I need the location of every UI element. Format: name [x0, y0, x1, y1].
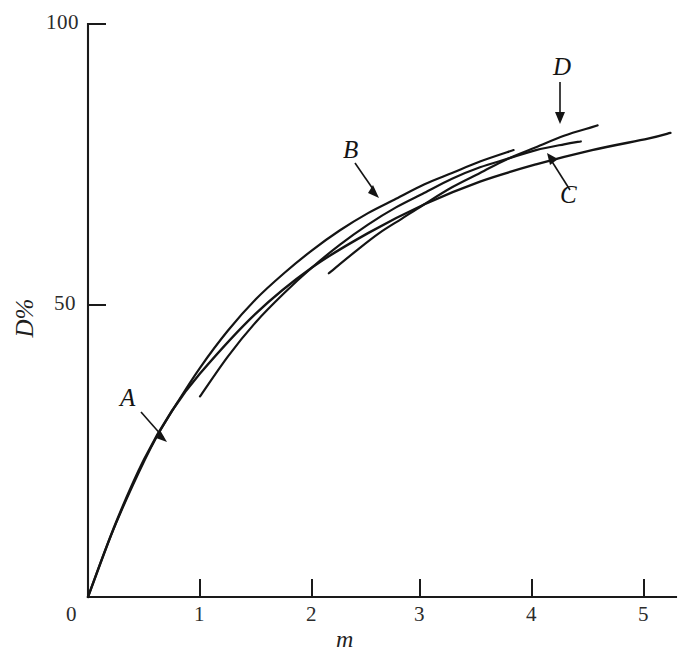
data-curves — [88, 125, 670, 597]
x-axis-title: m — [336, 626, 353, 653]
x-tick-label-5: 5 — [638, 602, 649, 627]
x-tick-label-1: 1 — [194, 602, 205, 627]
arrow-to-curve-b — [355, 163, 379, 198]
y-tick-label-0: 0 — [66, 602, 77, 627]
chart-plot-area — [0, 0, 687, 665]
x-tick-label-2: 2 — [306, 602, 317, 627]
curve-b — [200, 141, 581, 396]
curve-d — [329, 125, 598, 273]
curve-a — [88, 150, 514, 597]
curve-label-a: A — [120, 384, 135, 412]
curve-label-c: C — [560, 181, 577, 209]
y-axis-title-text: D% — [11, 299, 39, 338]
arrow-to-curve-d — [555, 82, 565, 124]
x-tick-label-3: 3 — [414, 602, 425, 627]
figure-canvas: D% m 100 50 0 1 2 3 4 5 A B D C — [0, 0, 687, 665]
x-tick-label-4: 4 — [526, 602, 537, 627]
y-tick-label-50: 50 — [54, 291, 76, 316]
y-axis-title: D% — [14, 286, 54, 356]
y-tick-label-100: 100 — [46, 10, 79, 35]
curve-label-d: D — [553, 53, 571, 81]
curve-c — [88, 133, 670, 597]
curve-label-b: B — [343, 136, 358, 164]
